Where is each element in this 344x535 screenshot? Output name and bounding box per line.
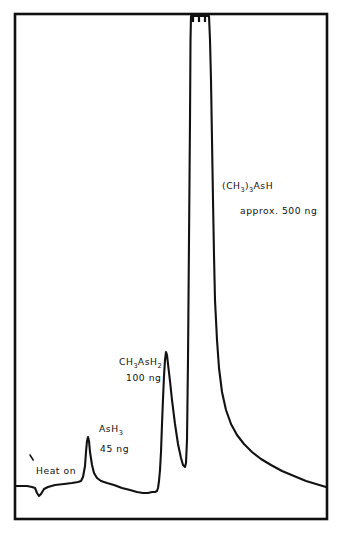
ash3-amount-label: 45 ng — [100, 443, 129, 454]
heat-on-label: Heat on — [36, 465, 76, 476]
chromatogram-plot: Heat on AsH3 45 ng CH3AsH2 100 ng (CH3)3… — [0, 0, 344, 535]
chromatogram-figure: Heat on AsH3 45 ng CH3AsH2 100 ng (CH3)3… — [0, 0, 344, 535]
figure-background — [0, 0, 344, 535]
ch3-3-ash-amount-label: approx. 500 ng — [240, 205, 317, 216]
ch3ash2-amount-label: 100 ng — [126, 372, 161, 383]
